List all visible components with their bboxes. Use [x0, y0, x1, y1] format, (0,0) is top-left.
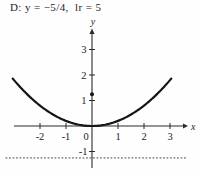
focus-point: [90, 92, 94, 96]
y-tick-label: 1: [81, 95, 86, 106]
x-tick-label: -1: [62, 131, 71, 142]
origin-label: 0: [83, 131, 88, 142]
parabola-figure: D: y = −5/4, lr = 5 xy-2-11230123-1: [0, 0, 199, 171]
x-tick-label: 3: [167, 131, 172, 142]
y-tick-label: -1: [79, 146, 88, 157]
x-tick-label: 1: [115, 131, 120, 142]
y-tick-label: 2: [81, 70, 86, 81]
y-axis-label: y: [90, 16, 96, 27]
y-tick-label: 3: [81, 44, 86, 55]
plot-canvas: xy-2-11230123-1: [0, 0, 199, 171]
x-axis-label: x: [190, 121, 196, 132]
y-axis-arrowhead: [89, 29, 94, 35]
x-axis-arrowhead: [183, 123, 188, 128]
x-tick-label: 2: [141, 131, 146, 142]
x-tick-label: -2: [36, 131, 45, 142]
